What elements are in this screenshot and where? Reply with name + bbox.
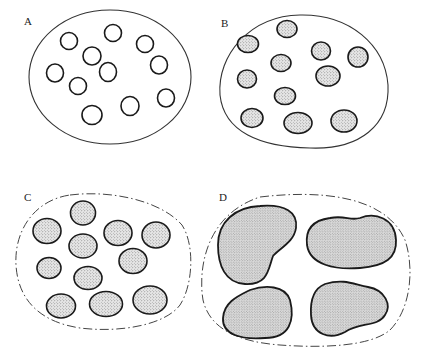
panel-b-inclusion (348, 47, 368, 67)
panel-a-inclusion (82, 106, 102, 125)
panel-c-inclusion (74, 267, 102, 290)
panel-a-inclusion (158, 89, 175, 107)
panel-b-inclusion (277, 21, 297, 38)
panel-d-blob-bottom-right (311, 282, 388, 336)
panel-b-inclusion (238, 70, 257, 88)
panel-d-label: D (219, 191, 227, 203)
panel-b-label: B (221, 17, 228, 29)
panel-a-label: A (24, 15, 32, 27)
panel-d-blob-top-right (307, 216, 396, 269)
panel-a-inclusion (151, 56, 168, 74)
panel-c-inclusion (90, 292, 123, 317)
aggregation-diagram: A B C D (0, 0, 432, 363)
panel-b-inclusion (331, 110, 357, 132)
panel-b: B (220, 15, 388, 148)
panel-c-inclusion (37, 258, 61, 279)
panel-c-inclusion (47, 294, 76, 318)
panel-c-inclusion (104, 221, 132, 246)
panel-a-inclusion (137, 36, 154, 53)
panel-b-inclusion (316, 66, 340, 86)
panel-b-inclusions (238, 21, 369, 134)
panel-c: C (16, 191, 191, 329)
panel-b-inclusion (284, 113, 312, 134)
panel-c-inclusion (142, 222, 170, 248)
panel-b-inclusion (241, 109, 263, 128)
panel-d-blob-top-left (218, 206, 296, 284)
panel-a-inclusion (61, 33, 78, 50)
panel-c-inclusion (71, 201, 96, 225)
panel-a-inclusion (105, 25, 122, 42)
panel-a-inclusion (70, 78, 87, 95)
panel-c-inclusion (33, 219, 61, 244)
panel-a-inclusion (100, 63, 117, 82)
panel-b-inclusion (312, 42, 331, 60)
panel-a-inclusion (47, 64, 64, 82)
panel-a-inclusions (47, 25, 175, 125)
panel-b-inclusion (271, 55, 291, 72)
panel-c-inclusion (119, 249, 147, 274)
panel-b-inclusion (275, 88, 296, 105)
panel-c-inclusion (133, 286, 167, 314)
panel-c-label: C (24, 191, 31, 203)
panel-a: A (24, 10, 191, 144)
panel-c-inclusion (69, 234, 97, 258)
panel-d-blob-bottom-left (223, 287, 292, 338)
panel-d: D (202, 191, 410, 346)
panel-a-inclusion (121, 97, 139, 116)
panel-a-inclusion (83, 47, 101, 65)
panel-b-inclusion (238, 36, 259, 53)
panel-c-inclusions (33, 201, 170, 318)
